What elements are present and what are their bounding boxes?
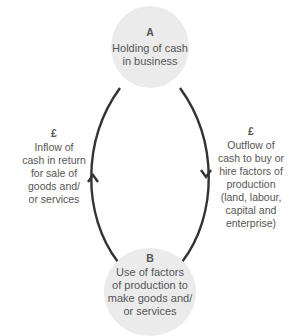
outflow-line-5: (land, labour,	[208, 191, 294, 204]
node-b-line-2: of production to	[112, 279, 188, 292]
node-a-letter: A	[146, 26, 154, 38]
outflow-line-6: capital and	[208, 204, 294, 217]
node-b-letter: B	[146, 252, 154, 264]
outflow-line-3: hire factors of	[208, 165, 294, 178]
inflow-line-2: cash in return	[14, 154, 94, 167]
inflow-arrow-line	[91, 88, 120, 262]
inflow-line-5: or services	[14, 193, 94, 206]
node-a-line-1: Holding of cash	[112, 42, 188, 55]
pound-icon: £	[208, 125, 294, 138]
pound-icon: £	[14, 127, 94, 140]
node-b-line-4: or services	[123, 305, 176, 318]
outflow-line-2: cash to buy or	[208, 152, 294, 165]
node-b-line-3: make goods and/	[108, 292, 192, 305]
node-a-line-2: in business	[122, 55, 177, 68]
node-b-line-1: Use of factors	[116, 266, 184, 279]
inflow-line-3: for sale of	[14, 167, 94, 180]
inflow-line-1: Inflow of	[14, 141, 94, 154]
outflow-line-1: Outflow of	[208, 139, 294, 152]
outflow-line-7: enterprise)	[208, 217, 294, 230]
inflow-line-4: goods and/	[14, 180, 94, 193]
outflow-line-4: production	[208, 178, 294, 191]
node-a: A Holding of cash in business	[111, 6, 189, 88]
outflow-label: £ Outflow of cash to buy or hire factors…	[208, 125, 294, 230]
node-b: B Use of factors of production to make g…	[104, 248, 196, 336]
inflow-label: £ Inflow of cash in return for sale of g…	[14, 127, 94, 206]
